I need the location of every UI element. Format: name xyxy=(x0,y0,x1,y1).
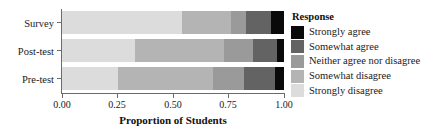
x-axis-title: Proportion of Students xyxy=(61,114,285,126)
legend-swatch-icon xyxy=(291,40,304,53)
legend-items: Strongly agreeSomewhat agreeNeither agre… xyxy=(291,25,436,98)
legend-item[interactable]: Somewhat agree xyxy=(291,40,436,55)
y-axis-tick-survey xyxy=(57,22,61,23)
legend-swatch-icon xyxy=(291,70,304,83)
bar-row xyxy=(62,39,284,62)
x-axis-ticklabel-100: 1.00 xyxy=(264,99,304,111)
bar-segment xyxy=(246,11,270,34)
x-axis-ticklabel-050: 0.50 xyxy=(153,99,193,111)
x-axis-ticklabel-075: 0.75 xyxy=(208,99,248,111)
y-axis-tick-pre-test xyxy=(57,78,61,79)
x-axis-ticklabel-0: 0.00 xyxy=(42,99,82,111)
bar-segment xyxy=(62,67,118,90)
stacked-bar-chart: Survey Post-test Pre-test 0.00 0.25 0.50… xyxy=(0,0,436,137)
bar-segment xyxy=(62,11,182,34)
y-axis-tick-post-test xyxy=(57,50,61,51)
legend-item[interactable]: Somewhat disagree xyxy=(291,69,436,84)
bar-segment xyxy=(118,67,213,90)
legend-swatch-icon xyxy=(291,84,304,97)
legend-swatch-icon xyxy=(291,26,304,39)
legend-item-label: Strongly agree xyxy=(309,26,371,38)
legend: Response Strongly agreeSomewhat agreeNei… xyxy=(291,10,436,98)
x-axis-tick-0 xyxy=(62,94,63,98)
bar-segment xyxy=(224,39,253,62)
legend-item-label: Somewhat disagree xyxy=(309,70,391,82)
bar-series-container xyxy=(62,9,284,93)
bar-segment xyxy=(275,67,284,90)
legend-title: Response xyxy=(292,10,436,23)
legend-item-label: Strongly disagree xyxy=(309,85,383,97)
legend-item-label: Somewhat agree xyxy=(309,41,379,53)
y-axis-label-survey: Survey xyxy=(0,18,54,29)
bar-segment xyxy=(182,11,231,34)
bar-segment xyxy=(231,11,247,34)
bar-segment xyxy=(213,67,244,90)
y-axis-labels: Survey Post-test Pre-test xyxy=(0,10,54,92)
legend-swatch-icon xyxy=(291,55,304,68)
x-axis-tick-100 xyxy=(284,94,285,98)
y-axis-label-pre-test: Pre-test xyxy=(0,74,54,85)
bar-row xyxy=(62,11,284,34)
bar-segment xyxy=(271,11,284,34)
bar-segment xyxy=(253,39,277,62)
legend-item[interactable]: Strongly disagree xyxy=(291,83,436,98)
legend-item[interactable]: Strongly agree xyxy=(291,25,436,40)
legend-item[interactable]: Neither agree nor disagree xyxy=(291,54,436,69)
y-axis-label-post-test: Post-test xyxy=(0,46,54,57)
x-axis-tick-025 xyxy=(117,94,118,98)
x-axis-tick-050 xyxy=(173,94,174,98)
x-axis-tick-075 xyxy=(228,94,229,98)
bar-row xyxy=(62,67,284,90)
x-axis-ticklabel-025: 0.25 xyxy=(97,99,137,111)
bar-segment xyxy=(62,39,135,62)
bar-segment xyxy=(244,67,275,90)
bar-segment xyxy=(277,39,284,62)
bar-segment xyxy=(135,39,224,62)
plot-area: Survey Post-test Pre-test 0.00 0.25 0.50… xyxy=(0,0,290,137)
legend-item-label: Neither agree nor disagree xyxy=(309,55,420,67)
